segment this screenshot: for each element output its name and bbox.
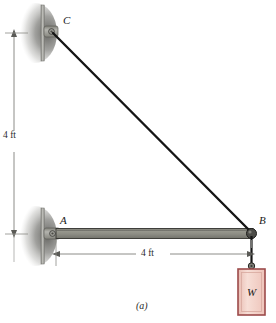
beam-AB <box>56 229 253 239</box>
beam-body <box>56 229 253 239</box>
figure-container: C A B 4 ft 4 ft W (a) <box>0 0 276 323</box>
wall-bracket-A <box>13 206 60 266</box>
vertical-dimension-label: 4 ft <box>3 131 16 141</box>
point-label-A: A <box>60 215 67 226</box>
point-label-B: B <box>259 215 266 226</box>
figure-caption: (a) <box>136 301 148 311</box>
cable-CB <box>53 33 251 232</box>
statics-diagram <box>0 0 276 323</box>
horizontal-dimension-label: 4 ft <box>141 249 154 259</box>
pin-A-center-icon <box>51 232 53 234</box>
hanger-eye-center-icon <box>250 265 252 267</box>
point-label-C: C <box>63 15 70 26</box>
weight-label: W <box>247 287 256 298</box>
pin-B-highlight-icon <box>248 230 251 233</box>
